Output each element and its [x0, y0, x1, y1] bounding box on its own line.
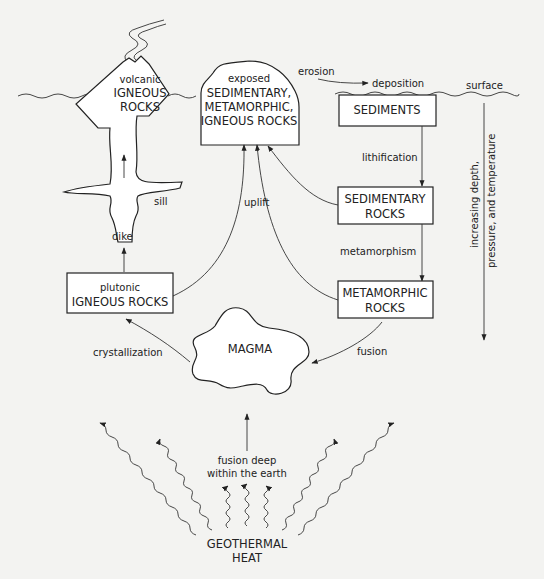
sediments-node: SEDIMENTS — [339, 95, 436, 126]
plutonic-igneous-rocks-node: plutonic IGNEOUS ROCKS — [67, 273, 173, 313]
svg-text:METAMORPHIC,: METAMORPHIC, — [205, 100, 294, 114]
dike-label: dike — [112, 231, 133, 242]
uplift-label: uplift — [244, 197, 270, 208]
svg-text:SEDIMENTARY,: SEDIMENTARY, — [207, 86, 292, 100]
erosion-arrow — [318, 79, 368, 83]
crystallization-label: crystallization — [93, 347, 163, 358]
geothermal-heat-node: GEOTHERMAL HEAT — [207, 537, 288, 565]
svg-text:GEOTHERMAL: GEOTHERMAL — [207, 537, 288, 551]
rock-cycle-diagram: volcanic IGNEOUS ROCKS sill dike exposed… — [0, 0, 544, 579]
uplift-arrow-plutonic — [173, 145, 244, 296]
svg-text:IGNEOUS: IGNEOUS — [114, 86, 167, 100]
svg-text:HEAT: HEAT — [232, 551, 263, 565]
fusion-deep-label-1: fusion deep — [218, 455, 276, 466]
fusion-deep-label-2: within the earth — [207, 468, 287, 479]
svg-text:METAMORPHIC: METAMORPHIC — [342, 286, 427, 300]
svg-text:exposed: exposed — [228, 73, 270, 84]
erosion-label: erosion — [298, 66, 335, 77]
svg-text:SEDIMENTARY: SEDIMENTARY — [345, 192, 427, 206]
svg-text:IGNEOUS ROCKS: IGNEOUS ROCKS — [201, 114, 298, 128]
svg-text:ROCKS: ROCKS — [120, 100, 160, 114]
lithification-label: lithification — [362, 152, 418, 163]
svg-text:plutonic: plutonic — [100, 282, 140, 293]
sill-label: sill — [154, 196, 168, 207]
svg-text:SEDIMENTS: SEDIMENTS — [354, 103, 421, 117]
svg-text:volcanic: volcanic — [119, 74, 160, 85]
surface-label: surface — [466, 80, 503, 91]
svg-text:IGNEOUS ROCKS: IGNEOUS ROCKS — [72, 295, 169, 309]
smoke-icon — [125, 20, 166, 62]
uplift-arrow-sedimentary — [268, 146, 338, 205]
depth-axis-label-2: pressure, and temperature — [486, 134, 497, 268]
metamorphic-rocks-node: METAMORPHIC ROCKS — [338, 281, 433, 318]
magma-label: MAGMA — [228, 342, 272, 356]
fusion-label: fusion — [357, 346, 387, 357]
volcanic-igneous-rocks-node: volcanic IGNEOUS ROCKS — [114, 74, 167, 114]
deposition-label: deposition — [372, 78, 424, 89]
depth-axis-label-1: increasing depth, — [469, 161, 480, 248]
uplift-arrow-metamorphic — [257, 145, 338, 300]
svg-text:ROCKS: ROCKS — [365, 207, 405, 221]
sedimentary-rocks-node: SEDIMENTARY ROCKS — [338, 187, 433, 224]
metamorphism-label: metamorphism — [340, 246, 416, 257]
svg-text:ROCKS: ROCKS — [365, 301, 405, 315]
